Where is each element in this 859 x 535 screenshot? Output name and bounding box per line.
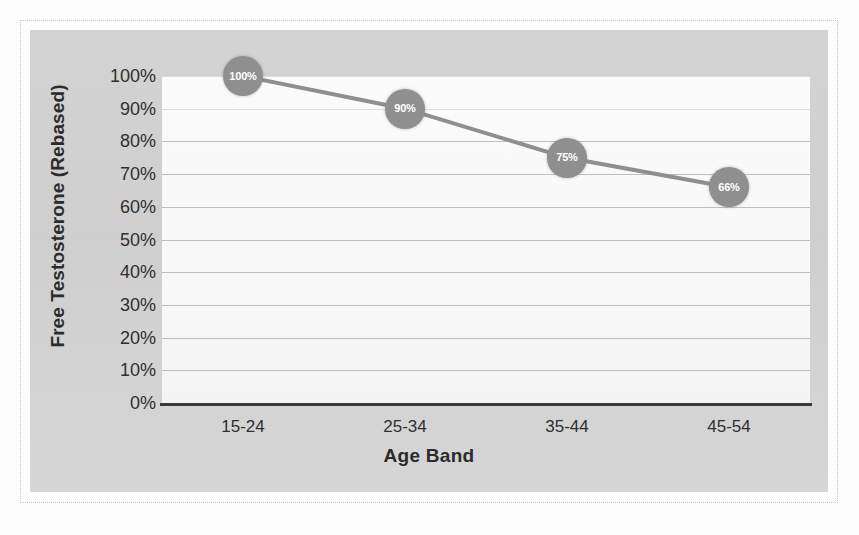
data-point-label: 90% [394, 103, 415, 114]
y-tick-label: 100% [38, 67, 156, 85]
data-point-marker: 100% [223, 56, 263, 96]
y-tick-label: 20% [38, 329, 156, 347]
gridline [162, 370, 810, 371]
x-tick-label: 35-44 [545, 417, 588, 437]
data-point-marker: 75% [547, 138, 587, 178]
x-axis-title: Age Band [30, 445, 828, 467]
y-tick-label: 10% [38, 361, 156, 379]
x-tick-label: 25-34 [383, 417, 426, 437]
x-tick-label: 15-24 [221, 417, 264, 437]
x-axis-line [160, 403, 812, 406]
data-point-marker: 66% [709, 167, 749, 207]
gridline [162, 109, 810, 110]
y-tick-label: 50% [38, 231, 156, 249]
y-tick-label: 0% [38, 394, 156, 412]
data-point-label: 100% [229, 71, 256, 82]
data-point-label: 66% [718, 182, 739, 193]
y-tick-label: 30% [38, 296, 156, 314]
y-tick-label: 90% [38, 100, 156, 118]
y-tick-label: 70% [38, 165, 156, 183]
y-tick-label: 40% [38, 263, 156, 281]
data-point-label: 75% [556, 152, 577, 163]
y-tick-label: 60% [38, 198, 156, 216]
x-tick-label: 45-54 [707, 417, 750, 437]
gridline [162, 272, 810, 273]
data-point-marker: 90% [385, 89, 425, 129]
gridline [162, 141, 810, 142]
figure-page: Free Testosterone (Rebased) 0%10%20%30%4… [0, 0, 859, 535]
gridline [162, 305, 810, 306]
gridline [162, 338, 810, 339]
gridline [162, 240, 810, 241]
y-tick-label: 80% [38, 132, 156, 150]
plot-area: 100%90%75%66% [162, 76, 810, 403]
chart-panel: Free Testosterone (Rebased) 0%10%20%30%4… [30, 30, 828, 492]
gridline [162, 207, 810, 208]
